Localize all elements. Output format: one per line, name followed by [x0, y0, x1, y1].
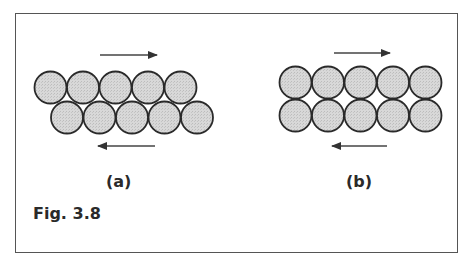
top-row-atoms: [280, 67, 442, 99]
panel-b-label: (b): [346, 174, 372, 190]
figure-caption: Fig. 3.8: [33, 206, 101, 222]
bottom-row-atoms: [51, 102, 213, 134]
panel-a: [35, 55, 214, 146]
top-row-atoms: [35, 72, 197, 104]
panel-b: [280, 53, 442, 146]
panel-a-label: (a): [106, 174, 131, 190]
bottom-row-atoms: [280, 100, 442, 132]
